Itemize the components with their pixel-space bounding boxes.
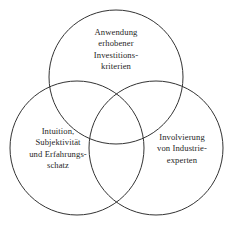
- venn-diagram: Anwendung erhobener Investitions- kriter…: [0, 0, 232, 229]
- venn-circle-left: [10, 81, 144, 215]
- venn-circles-graphic: [0, 0, 232, 229]
- venn-circle-right: [89, 81, 223, 215]
- venn-circle-top: [49, 10, 183, 144]
